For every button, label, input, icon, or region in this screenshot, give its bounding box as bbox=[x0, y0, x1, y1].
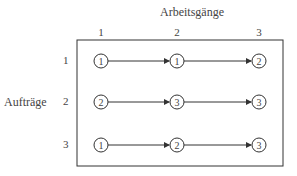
node-r1-c1: 1 bbox=[99, 56, 104, 67]
node-r3-c3: 3 bbox=[257, 140, 262, 151]
node-r3-c1: 1 bbox=[99, 140, 104, 151]
node-r1-c2: 1 bbox=[175, 56, 180, 67]
node-r1-c3: 2 bbox=[257, 56, 262, 67]
diagram-canvas: 1 1 2 2 3 3 1 2 3 bbox=[0, 0, 297, 176]
node-r2-c2: 3 bbox=[175, 97, 180, 108]
node-r3-c2: 2 bbox=[175, 140, 180, 151]
node-r2-c1: 2 bbox=[99, 97, 104, 108]
node-r2-c3: 3 bbox=[257, 97, 262, 108]
